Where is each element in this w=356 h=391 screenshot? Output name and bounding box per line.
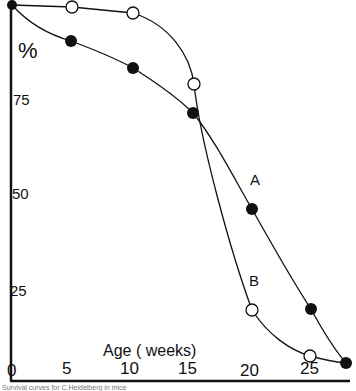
y-tick-75: 75 xyxy=(13,92,30,107)
figure-caption: Survival curves for C.Heidelberg in mice xyxy=(2,384,127,391)
x-tick-25: 25 xyxy=(300,360,319,377)
series-b-label: B xyxy=(249,273,259,288)
series-b-markers xyxy=(66,1,316,362)
series-a-markers xyxy=(7,0,352,369)
x-axis-label: Age ( weeks) xyxy=(103,343,196,359)
x-tick-20: 20 xyxy=(240,362,259,379)
series-a-line xyxy=(12,5,346,363)
y-tick-25: 25 xyxy=(10,283,27,298)
series-a-label: A xyxy=(250,172,260,187)
y-axis-label: % xyxy=(18,40,38,62)
x-tick-0: 0 xyxy=(7,362,16,379)
series-b-line xyxy=(12,5,345,363)
y-tick-50: 50 xyxy=(12,186,29,201)
x-tick-5: 5 xyxy=(62,360,71,377)
x-tick-15: 15 xyxy=(178,360,197,377)
x-tick-10: 10 xyxy=(120,360,139,377)
